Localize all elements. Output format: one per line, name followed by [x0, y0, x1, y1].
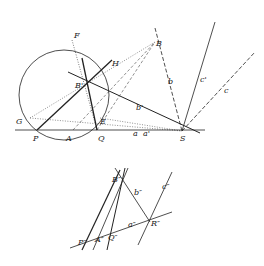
label-B2: B″: [111, 175, 121, 184]
label-E: E: [99, 117, 106, 126]
label-bp: b': [136, 103, 143, 112]
dotted-gs: [30, 118, 182, 131]
label-A2: A″: [94, 235, 104, 244]
label-a: a: [133, 129, 138, 138]
label-a2: a″: [128, 220, 136, 229]
circle: [19, 50, 109, 140]
label-Q: Q: [98, 134, 105, 143]
label-b2: b″: [134, 188, 142, 197]
line-q: [82, 58, 97, 130]
upper-figure: [15, 22, 255, 140]
label-Bp: B': [74, 81, 83, 90]
label-F: F: [73, 31, 80, 40]
line-c: [182, 52, 255, 131]
label-S: S: [180, 134, 186, 143]
lower-labels: B″ b″ c″ R″ a″ P″ A″ Q″: [77, 175, 169, 247]
label-P2: P″: [77, 238, 86, 247]
label-B: B: [155, 39, 162, 48]
label-c2: c″: [162, 182, 169, 191]
label-c: c: [224, 86, 229, 95]
label-H: H: [111, 59, 120, 68]
geometry-diagram: F H B B' G E P A Q S a a' b b' c c' B″ b…: [0, 0, 264, 266]
label-b: b: [168, 77, 173, 86]
label-Q2: Q″: [108, 233, 118, 242]
label-A: A: [65, 134, 72, 143]
dotted-es: [100, 118, 182, 131]
label-cp: c': [200, 75, 207, 84]
upper-labels: F H B B' G E P A Q S a a' b b' c c': [16, 31, 229, 143]
label-G: G: [16, 117, 23, 126]
line-c-prime: [182, 22, 215, 131]
label-P: P: [32, 134, 39, 143]
label-ap: a': [143, 129, 150, 138]
label-R2: R″: [150, 219, 160, 228]
